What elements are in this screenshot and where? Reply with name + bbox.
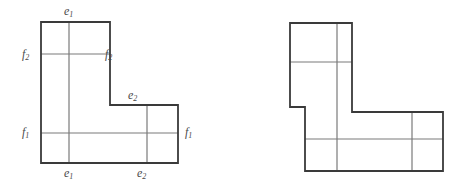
label-right-f2: f2 xyxy=(105,48,112,60)
label-left-f1: f1 xyxy=(22,126,29,138)
right-polyomino-outline xyxy=(290,23,443,171)
left-polyomino-group xyxy=(41,22,178,163)
left-polyomino-outline xyxy=(41,22,178,163)
label-mid-e2-subscript: 2 xyxy=(133,94,137,103)
label-bottom-e2-subscript: 2 xyxy=(142,172,146,181)
label-top-e1: e1 xyxy=(64,5,73,17)
figure-canvas: e1f2f2e2f1f1e1e2 xyxy=(0,0,460,190)
label-bottom-e2: e2 xyxy=(137,167,146,179)
label-bottom-e1-subscript: 1 xyxy=(69,172,73,181)
label-bottom-e1: e1 xyxy=(64,167,73,179)
label-mid-e2: e2 xyxy=(128,89,137,101)
label-right-f1: f1 xyxy=(185,126,192,138)
label-left-f2-subscript: 2 xyxy=(25,53,29,62)
polyomino-diagram xyxy=(0,0,460,190)
label-right-f1-subscript: 1 xyxy=(188,131,192,140)
label-top-e1-subscript: 1 xyxy=(69,10,73,19)
label-left-f2: f2 xyxy=(22,48,29,60)
label-right-f2-subscript: 2 xyxy=(108,53,112,62)
label-left-f1-subscript: 1 xyxy=(25,131,29,140)
right-polyomino-group xyxy=(290,23,443,171)
